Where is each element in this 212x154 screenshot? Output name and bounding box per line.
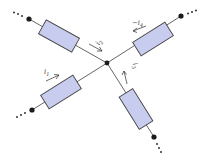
terminal-branch-2 xyxy=(13,12,32,22)
label-i2: i2 xyxy=(94,38,105,47)
terminal-branch-4 xyxy=(178,10,197,19)
junction-node xyxy=(105,61,110,66)
terminal-branch-3 xyxy=(151,134,162,153)
arrow-i3-icon xyxy=(122,71,127,84)
label-i3: i3 xyxy=(130,62,140,70)
kirchhoff-node-diagram: i2 −i4 i1 i3 xyxy=(0,0,212,154)
resistor-branch-2 xyxy=(39,20,80,52)
resistor-branch-4 xyxy=(133,22,174,56)
terminal-branch-1 xyxy=(16,107,35,118)
label-neg-i4: −i4 xyxy=(132,19,143,28)
label-i1: i1 xyxy=(44,68,49,77)
resistor-branch-3 xyxy=(119,89,153,130)
resistor-branch-1 xyxy=(41,75,82,109)
